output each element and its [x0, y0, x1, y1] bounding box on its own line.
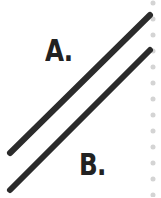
- label-b: B.: [79, 150, 105, 180]
- edge-dot: [151, 129, 156, 134]
- edge-dot: [151, 113, 156, 118]
- edge-dot: [151, 177, 156, 182]
- edge-dot: [151, 145, 156, 150]
- edge-dot: [151, 97, 156, 102]
- edge-dot: [151, 161, 156, 166]
- edge-dot: [151, 33, 156, 38]
- edge-dot: [151, 65, 156, 70]
- edge-dot: [151, 81, 156, 86]
- line-a: [10, 15, 150, 153]
- edge-dot: [151, 1, 156, 6]
- dotted-edge: [151, 1, 156, 198]
- label-a: A.: [45, 36, 72, 66]
- edge-dot: [151, 193, 156, 198]
